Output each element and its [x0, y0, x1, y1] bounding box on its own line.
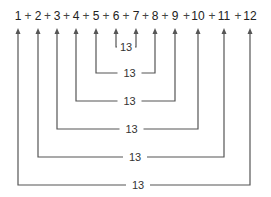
bracket-line-right [142, 33, 156, 73]
bracket-line-left [76, 33, 118, 101]
plus-sign: + [44, 9, 51, 23]
term-1: 1 [15, 9, 22, 23]
bracket-line-left [38, 33, 123, 157]
term-8: 8 [152, 9, 159, 23]
term-5: 5 [93, 9, 100, 23]
pair-sum-label: 13 [123, 95, 135, 107]
arrow-up-icon [173, 28, 178, 34]
pair-sum-label: 13 [125, 123, 137, 135]
arrow-up-icon [55, 28, 60, 34]
bracket-line-right [150, 33, 250, 185]
arrow-up-icon [16, 28, 21, 34]
bracket-line-right [135, 33, 136, 47]
bracket-line-left [116, 33, 117, 47]
pair-sum-label: 13 [120, 41, 132, 53]
plus-sign: + [208, 9, 215, 23]
arrow-up-icon [222, 28, 227, 34]
pairing-sum-diagram: 1+2+3+4+5+6+7+8+9+10+11+12131313131313 [0, 0, 271, 197]
plus-sign: + [122, 9, 129, 23]
term-9: 9 [172, 9, 179, 23]
pair-sum-label: 13 [129, 151, 141, 163]
plus-sign: + [142, 9, 149, 23]
plus-sign: + [234, 9, 241, 23]
bracket-line-right [147, 33, 224, 157]
bracket-line-right [144, 33, 199, 129]
term-11: 11 [218, 9, 231, 23]
term-3: 3 [54, 9, 61, 23]
term-10: 10 [191, 9, 205, 23]
arrow-up-icon [74, 28, 79, 34]
plus-sign: + [183, 9, 190, 23]
bracket-line-left [57, 33, 120, 129]
plus-sign: + [102, 9, 109, 23]
plus-sign: + [24, 9, 31, 23]
arrow-up-icon [94, 28, 99, 34]
term-12: 12 [243, 9, 257, 23]
arrow-up-icon [196, 28, 201, 34]
term-2: 2 [35, 9, 42, 23]
plus-sign: + [63, 9, 70, 23]
term-7: 7 [133, 9, 140, 23]
pair-sum-label: 13 [123, 67, 135, 79]
arrow-up-icon [134, 28, 139, 34]
bracket-line-left [18, 33, 126, 185]
pair-sum-label: 13 [132, 179, 144, 191]
term-4: 4 [73, 9, 80, 23]
term-6: 6 [113, 9, 120, 23]
plus-sign: + [161, 9, 168, 23]
arrow-up-icon [36, 28, 41, 34]
arrow-up-icon [248, 28, 253, 34]
bracket-line-left [96, 33, 118, 73]
bracket-line-right [142, 33, 176, 101]
arrow-up-icon [153, 28, 158, 34]
plus-sign: + [82, 9, 89, 23]
arrow-up-icon [114, 28, 119, 34]
